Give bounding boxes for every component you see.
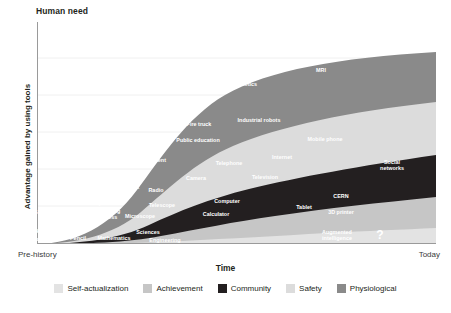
legend-item[interactable]: Safety [286,284,322,293]
x-axis-line [37,243,436,244]
stacked-area-svg [37,22,436,244]
legend-swatch [54,284,63,293]
x-tick-today: Today [419,250,440,259]
x-axis-label: Time [0,263,451,273]
legend-label: Self-actualization [67,284,128,293]
page-title: Human need [36,6,88,16]
x-tick-prehistory: Pre-history [18,250,57,259]
legend: Self-actualizationAchievementCommunitySa… [0,284,451,293]
legend-label: Physiological [350,284,397,293]
legend-label: Community [231,284,271,293]
legend-swatch [286,284,295,293]
legend-label: Safety [299,284,322,293]
legend-item[interactable]: Achievement [143,284,202,293]
legend-item[interactable]: Community [218,284,271,293]
legend-item[interactable]: Self-actualization [54,284,128,293]
legend-swatch [337,284,346,293]
chart-root: Human need Advantage gained by using too… [0,0,451,313]
plot-area [37,22,436,244]
y-axis-label: Advantage gained by using tools [23,57,32,237]
legend-swatch [218,284,227,293]
data-label: Fire [0,233,10,239]
data-label: ? [376,228,383,242]
legend-swatch [143,284,152,293]
y-axis-line [37,22,38,244]
legend-item[interactable]: Physiological [337,284,397,293]
legend-label: Achievement [156,284,202,293]
